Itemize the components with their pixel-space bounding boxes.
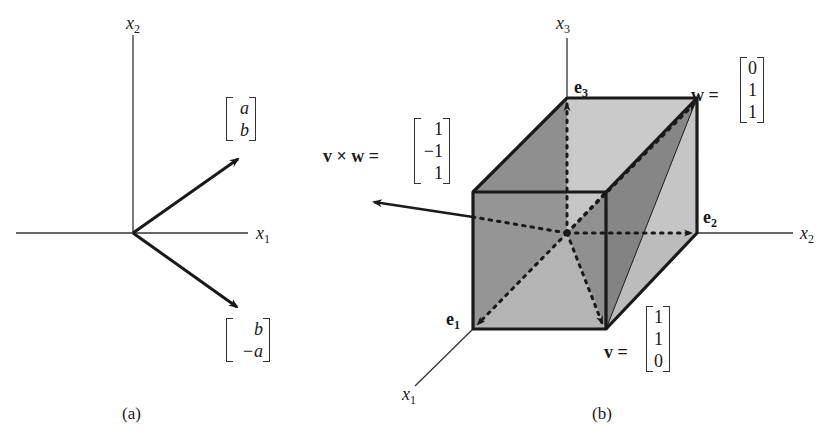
figure-canvas: x2 x1 a b b −a (a) x3 x2 x1 e3 e2 e1 w =… [0,0,838,440]
vector-w: 0 1 1 [740,57,764,123]
vector-b-neg-a: b −a [226,318,270,362]
axis-label-x2-b: x2 [800,224,814,245]
axis-label-x1-b: x1 [402,385,416,406]
label-e1: e1 [446,310,460,331]
axis-label-x1-a: x1 [256,224,270,245]
vector-a-b: a b [226,97,256,141]
axis-label-x2-a: x2 [126,14,140,35]
label-e3: e3 [574,78,588,99]
label-cross-product: v × w = [323,147,379,165]
caption-a: (a) [122,404,141,424]
panel-a-axes [16,35,248,233]
vector-v: 1 1 0 [646,306,670,372]
label-e2: e2 [703,208,717,229]
origin-point [564,230,571,237]
label-v: v = [604,343,628,361]
cross-product-arrow [374,202,473,217]
label-w: w = [691,86,719,104]
vector-cross-product: 1 −1 1 [414,118,450,184]
axis-label-x3-b: x3 [556,14,570,35]
caption-b: (b) [592,404,612,424]
